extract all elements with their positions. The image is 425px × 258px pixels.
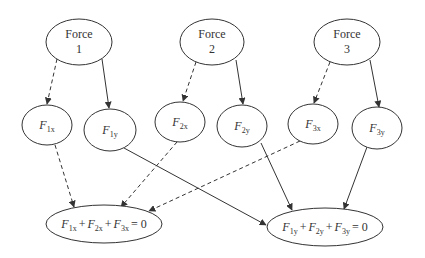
edge-f3x-sum-x xyxy=(149,141,300,211)
force-node-3: Force 3 xyxy=(314,19,380,65)
force-node-2: Force 2 xyxy=(180,19,244,65)
component-subscript: 2x xyxy=(180,122,188,131)
edge-force3-f3x xyxy=(314,62,330,103)
edge-f2x-sum-x xyxy=(121,142,177,207)
component-subscript: 1x xyxy=(47,125,55,134)
component-node-f1y: F1y xyxy=(84,109,136,151)
force-number: 2 xyxy=(209,42,215,56)
component-node-f2y: F2y xyxy=(217,105,267,147)
component-subscript: 3y xyxy=(377,128,385,137)
edge-force1-f1x xyxy=(47,59,57,104)
component-subscript: 3x xyxy=(313,124,321,133)
edge-force2-f2x xyxy=(183,62,196,101)
force-decomposition-diagram: Force 1 Force 2 Force 3 F1x F1y F2x F2y … xyxy=(0,0,425,258)
edge-f2y-sum-y xyxy=(261,143,292,210)
component-node-f3y: F3y xyxy=(352,107,402,149)
force-label: Force xyxy=(198,27,225,41)
edge-force2-f2y xyxy=(236,60,243,104)
edge-force3-f3y xyxy=(370,60,379,107)
force-number: 1 xyxy=(76,42,82,56)
edge-f3y-sum-y xyxy=(344,147,367,209)
force-node-1: Force 1 xyxy=(46,19,112,65)
equation-node-x: F1x+F2x+F3x= 0 xyxy=(46,205,162,243)
component-node-f1x: F1x xyxy=(22,105,72,145)
component-node-f2x: F2x xyxy=(155,102,205,142)
component-node-f3x: F3x xyxy=(288,104,338,144)
edge-f1x-sum-x xyxy=(55,145,74,207)
component-subscript: 1y xyxy=(110,130,118,139)
force-label: Force xyxy=(65,27,92,41)
force-label: Force xyxy=(333,27,360,41)
component-subscript: 2y xyxy=(242,126,250,135)
equation-node-y: F1y+F2y+F3y= 0 xyxy=(267,208,383,246)
force-number: 3 xyxy=(344,42,350,56)
edge-force1-f1y xyxy=(102,59,109,108)
